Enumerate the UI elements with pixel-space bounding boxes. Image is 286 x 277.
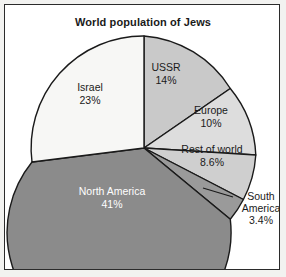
pie-label-south-america-name-line1: South — [234, 190, 280, 202]
figure-container: World population of Jews Israel 23% USSR — [0, 0, 286, 277]
pie-label-ussr-name: USSR — [135, 61, 197, 74]
pie-label-north-america-name: North America — [57, 185, 167, 198]
pie-label-ussr-value: 14% — [135, 74, 197, 87]
pie-label-ussr: USSR 14% — [135, 61, 197, 86]
pie-label-rest-of-world-name: Rest of world — [168, 143, 256, 156]
pie-label-israel-value: 23% — [57, 94, 123, 107]
pie-label-north-america: North America 41% — [57, 185, 167, 210]
chart-frame: World population of Jews Israel 23% USSR — [4, 4, 280, 270]
pie-label-south-america: South America 3.4% — [234, 190, 280, 226]
pie-label-israel-name: Israel — [57, 81, 123, 94]
pie-chart — [5, 5, 280, 269]
pie-label-north-america-value: 41% — [57, 198, 167, 211]
pie-label-rest-of-world-value: 8.6% — [168, 156, 256, 169]
pie-label-south-america-name-line2: America — [234, 202, 280, 214]
pie-label-europe-value: 10% — [180, 117, 242, 130]
pie-label-israel: Israel 23% — [57, 81, 123, 106]
pie-label-europe-name: Europe — [180, 104, 242, 117]
pie-label-south-america-value: 3.4% — [234, 214, 280, 226]
pie-label-rest-of-world: Rest of world 8.6% — [168, 143, 256, 168]
pie-label-europe: Europe 10% — [180, 104, 242, 129]
